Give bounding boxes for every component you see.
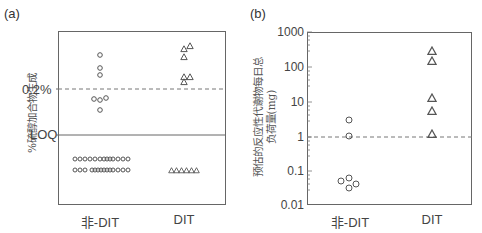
panel-a-dit-points bbox=[169, 43, 200, 173]
panel-a-non-dit-points bbox=[73, 53, 130, 172]
chart-graphics bbox=[0, 0, 482, 233]
panel-b-y-axis-ticks bbox=[307, 32, 312, 190]
panel-a-reference-lines bbox=[56, 89, 226, 135]
panel-b-dit-points bbox=[428, 47, 436, 137]
panel-b-non-dit-points bbox=[338, 117, 359, 191]
